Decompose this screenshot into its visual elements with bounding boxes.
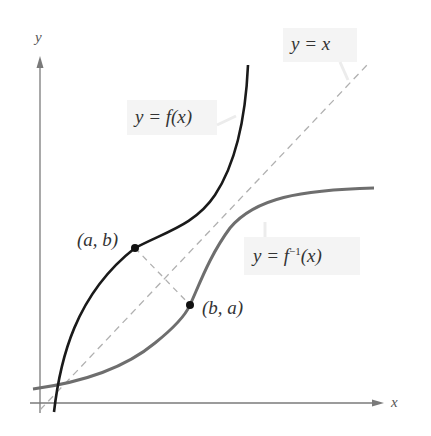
f-leader [217, 116, 236, 125]
y-axis-label: y [35, 29, 42, 46]
f-label-arg: (x) [171, 106, 192, 127]
identity-label: y = x [291, 33, 330, 55]
point-ba-text: (b, a) [202, 297, 243, 318]
reflection-connector [135, 248, 190, 305]
point-ba-marker [186, 301, 194, 309]
point-ab-text: (a, b) [77, 229, 118, 250]
point-ab-marker [131, 244, 139, 252]
point-ba-label: (b, a) [202, 297, 243, 319]
diagram-canvas [0, 0, 431, 436]
y-axis-arrow-icon [37, 56, 44, 68]
finv-label-prefix: y = [253, 245, 284, 266]
identity-leader [340, 62, 348, 80]
identity-label-prefix: y = [291, 33, 322, 54]
f-label-prefix: y = [135, 106, 166, 127]
finv-label-sup: −1 [289, 245, 301, 257]
f-label: y = f(x) [135, 106, 192, 128]
x-axis-arrow-icon [372, 400, 384, 407]
finv-label-arg: (x) [301, 245, 322, 266]
finverse-curve [33, 188, 374, 389]
identity-label-var: x [322, 33, 330, 54]
finv-label: y = f−1(x) [253, 245, 322, 267]
inverse-function-diagram: y x y = x y = f(x) y = f−1(x) (a, b) (b,… [0, 0, 431, 436]
x-axis-label: x [391, 394, 398, 411]
point-ab-label: (a, b) [77, 229, 118, 251]
